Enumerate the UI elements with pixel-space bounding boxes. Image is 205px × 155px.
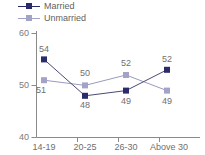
chart-canvas	[0, 0, 205, 155]
series-markers-unmarried	[41, 72, 170, 94]
data-label-married-1: 48	[75, 100, 95, 110]
data-label-married-3: 52	[157, 54, 177, 64]
data-label-unmarried-0: 51	[31, 85, 51, 95]
data-label-married-2: 49	[116, 96, 136, 106]
data-point-unmarried-2	[123, 72, 129, 78]
data-label-unmarried-3: 49	[157, 96, 177, 106]
series-line-married	[44, 59, 167, 95]
data-point-unmarried-1	[82, 82, 88, 88]
data-label-unmarried-2: 52	[116, 58, 136, 68]
data-point-unmarried-0	[41, 77, 47, 83]
data-point-married-0	[41, 56, 47, 62]
data-point-married-1	[82, 93, 88, 99]
data-label-married-0: 54	[34, 44, 54, 54]
y-tick-40: 40	[11, 132, 29, 142]
data-point-unmarried-3	[164, 88, 170, 94]
axis-lines	[37, 31, 201, 138]
x-tick-20-25: 20-25	[70, 142, 100, 152]
x-tick-14-19: 14-19	[29, 142, 59, 152]
data-point-married-3	[164, 67, 170, 73]
x-tick-above-30: Above 30	[146, 142, 192, 152]
y-tick-50: 50	[11, 80, 29, 90]
data-label-unmarried-1: 50	[75, 68, 95, 78]
data-point-married-2	[123, 88, 129, 94]
x-tick-26-30: 26-30	[111, 142, 141, 152]
y-tick-60: 60	[11, 28, 29, 38]
line-chart: Married Unmarried	[0, 0, 205, 155]
series-line-unmarried	[44, 75, 167, 91]
